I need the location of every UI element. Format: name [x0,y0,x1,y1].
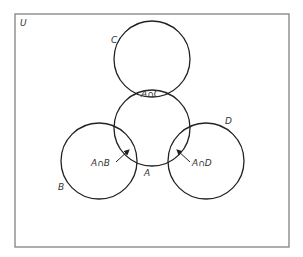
region-label-a-and-b: A∩B [90,158,110,168]
set-label-a: A [143,168,150,178]
set-label-c: C [111,35,118,45]
set-circles [61,21,244,199]
intersection-labels: A∩CA∩BA∩D [90,89,212,168]
set-label-d: D [225,116,232,126]
region-label-a-and-d: A∩D [191,158,212,168]
region-label-a-and-c: A∩C [140,89,161,99]
universe-label: U [20,18,27,28]
circle-c [114,21,190,97]
arrow-a-and-d [177,150,190,162]
set-label-b: B [58,182,64,192]
universe-rectangle [15,14,289,247]
venn-diagram: U CABD A∩CA∩BA∩D [0,0,303,257]
set-labels: CABD [58,35,232,192]
circle-a [114,90,190,166]
